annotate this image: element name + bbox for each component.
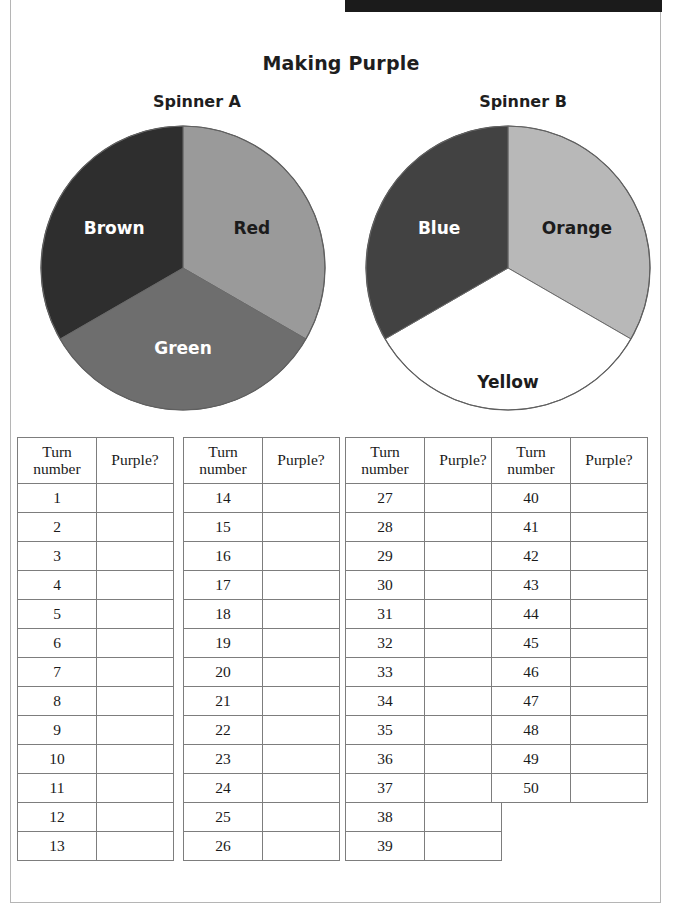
header-turn-number-line2: number xyxy=(346,461,424,477)
table-row: 8 xyxy=(18,687,174,716)
purple-answer-cell[interactable] xyxy=(425,571,502,600)
purple-answer-cell[interactable] xyxy=(263,658,340,687)
turn-number-cell: 14 xyxy=(184,484,263,513)
table-row: 36 xyxy=(346,745,502,774)
turn-number-cell: 25 xyxy=(184,803,263,832)
turn-number-cell: 1 xyxy=(18,484,97,513)
purple-answer-cell[interactable] xyxy=(97,513,174,542)
purple-answer-cell[interactable] xyxy=(263,832,340,861)
page-title: Making Purple xyxy=(0,52,682,74)
table-row: 35 xyxy=(346,716,502,745)
purple-answer-cell[interactable] xyxy=(97,745,174,774)
turn-number-cell: 35 xyxy=(346,716,425,745)
table-row: 20 xyxy=(184,658,340,687)
purple-answer-cell[interactable] xyxy=(425,600,502,629)
spinner-a-svg: RedGreenBrown xyxy=(39,124,327,412)
purple-answer-cell[interactable] xyxy=(571,774,648,803)
purple-answer-cell[interactable] xyxy=(97,774,174,803)
table-row: 34 xyxy=(346,687,502,716)
purple-answer-cell[interactable] xyxy=(425,774,502,803)
purple-answer-cell[interactable] xyxy=(263,803,340,832)
table-row: 48 xyxy=(492,716,648,745)
table-row: 15 xyxy=(184,513,340,542)
header-turn-number: Turnnumber xyxy=(18,438,97,484)
table-row: 41 xyxy=(492,513,648,542)
purple-answer-cell[interactable] xyxy=(97,600,174,629)
purple-answer-cell[interactable] xyxy=(571,658,648,687)
purple-answer-cell[interactable] xyxy=(425,513,502,542)
spinner-b-chart: OrangeYellowBlue xyxy=(364,124,652,412)
table-row: 5 xyxy=(18,600,174,629)
table-row: 33 xyxy=(346,658,502,687)
table-row: 40 xyxy=(492,484,648,513)
purple-answer-cell[interactable] xyxy=(263,542,340,571)
purple-answer-cell[interactable] xyxy=(425,832,502,861)
turn-number-cell: 3 xyxy=(18,542,97,571)
purple-answer-cell[interactable] xyxy=(263,513,340,542)
purple-answer-cell[interactable] xyxy=(263,629,340,658)
purple-answer-cell[interactable] xyxy=(571,571,648,600)
purple-answer-cell[interactable] xyxy=(425,542,502,571)
purple-answer-cell[interactable] xyxy=(97,542,174,571)
purple-answer-cell[interactable] xyxy=(97,658,174,687)
purple-answer-cell[interactable] xyxy=(263,687,340,716)
purple-answer-cell[interactable] xyxy=(571,542,648,571)
purple-answer-cell[interactable] xyxy=(425,745,502,774)
header-turn-number-line1: Turn xyxy=(492,444,570,460)
turn-number-cell: 20 xyxy=(184,658,263,687)
purple-answer-cell[interactable] xyxy=(571,484,648,513)
table-row: 25 xyxy=(184,803,340,832)
turn-number-cell: 23 xyxy=(184,745,263,774)
turn-number-cell: 10 xyxy=(18,745,97,774)
purple-answer-cell[interactable] xyxy=(425,716,502,745)
turn-number-cell: 46 xyxy=(492,658,571,687)
turn-table: TurnnumberPurple?14151617181920212223242… xyxy=(183,437,340,861)
purple-answer-cell[interactable] xyxy=(263,600,340,629)
purple-answer-cell[interactable] xyxy=(571,687,648,716)
purple-answer-cell[interactable] xyxy=(97,832,174,861)
purple-answer-cell[interactable] xyxy=(571,745,648,774)
purple-answer-cell[interactable] xyxy=(97,629,174,658)
purple-answer-cell[interactable] xyxy=(571,513,648,542)
purple-answer-cell[interactable] xyxy=(425,658,502,687)
purple-answer-cell[interactable] xyxy=(263,484,340,513)
header-turn-number-line2: number xyxy=(18,461,96,477)
header-turn-number: Turnnumber xyxy=(184,438,263,484)
turn-number-cell: 8 xyxy=(18,687,97,716)
table-row: 28 xyxy=(346,513,502,542)
turn-number-cell: 7 xyxy=(18,658,97,687)
turn-number-cell: 49 xyxy=(492,745,571,774)
wedge-label-green: Green xyxy=(154,338,212,358)
wedge-label-brown: Brown xyxy=(84,218,145,238)
purple-answer-cell[interactable] xyxy=(425,484,502,513)
purple-answer-cell[interactable] xyxy=(425,629,502,658)
table-row: 26 xyxy=(184,832,340,861)
table-row: 19 xyxy=(184,629,340,658)
purple-answer-cell[interactable] xyxy=(263,774,340,803)
purple-answer-cell[interactable] xyxy=(97,716,174,745)
table-row: 9 xyxy=(18,716,174,745)
turn-number-cell: 30 xyxy=(346,571,425,600)
purple-answer-cell[interactable] xyxy=(425,687,502,716)
turn-number-cell: 41 xyxy=(492,513,571,542)
purple-answer-cell[interactable] xyxy=(97,484,174,513)
turn-number-cell: 42 xyxy=(492,542,571,571)
header-purple: Purple? xyxy=(263,438,340,484)
purple-answer-cell[interactable] xyxy=(263,716,340,745)
table-row: 2 xyxy=(18,513,174,542)
header-turn-number: Turnnumber xyxy=(492,438,571,484)
purple-answer-cell[interactable] xyxy=(571,600,648,629)
purple-answer-cell[interactable] xyxy=(571,716,648,745)
table-row: 13 xyxy=(18,832,174,861)
purple-answer-cell[interactable] xyxy=(97,687,174,716)
wedge-label-orange: Orange xyxy=(542,218,612,238)
purple-answer-cell[interactable] xyxy=(263,571,340,600)
header-turn-number-line2: number xyxy=(492,461,570,477)
purple-answer-cell[interactable] xyxy=(425,803,502,832)
purple-answer-cell[interactable] xyxy=(97,571,174,600)
purple-answer-cell[interactable] xyxy=(263,745,340,774)
turn-number-cell: 26 xyxy=(184,832,263,861)
purple-answer-cell[interactable] xyxy=(97,803,174,832)
turn-number-cell: 32 xyxy=(346,629,425,658)
purple-answer-cell[interactable] xyxy=(571,629,648,658)
